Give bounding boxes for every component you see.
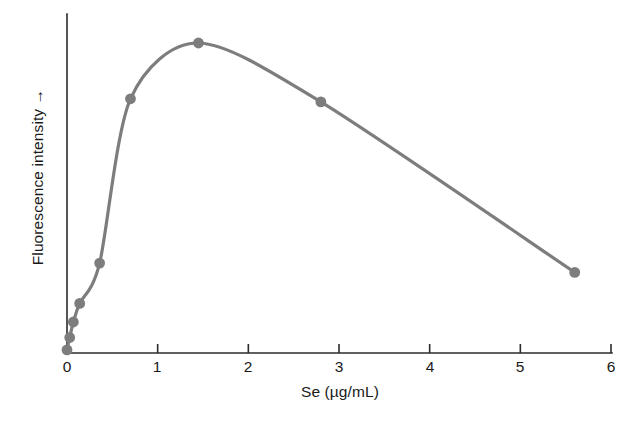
data-point-7 [315, 97, 326, 108]
x-tick-label-6: 6 [591, 358, 631, 376]
data-point-0 [62, 345, 73, 356]
data-point-3 [74, 298, 85, 309]
data-point-4 [94, 258, 105, 269]
x-tick-label-3: 3 [319, 358, 359, 376]
chart-figure: Fluorescence intensity → Se (µg/mL) 0 1 … [0, 0, 640, 429]
data-point-8 [569, 267, 580, 278]
x-tick-label-2: 2 [228, 358, 268, 376]
x-axis-title: Se (µg/mL) [150, 383, 530, 401]
data-point-6 [193, 38, 204, 49]
x-tick-label-1: 1 [137, 358, 177, 376]
x-tick-label-4: 4 [410, 358, 450, 376]
data-point-5 [125, 93, 136, 104]
x-axis-tick-marks [67, 344, 611, 353]
data-point-2 [68, 317, 79, 328]
x-tick-label-5: 5 [500, 358, 540, 376]
data-curve [67, 43, 575, 350]
x-tick-label-0: 0 [47, 358, 87, 376]
data-point-1 [64, 332, 75, 343]
